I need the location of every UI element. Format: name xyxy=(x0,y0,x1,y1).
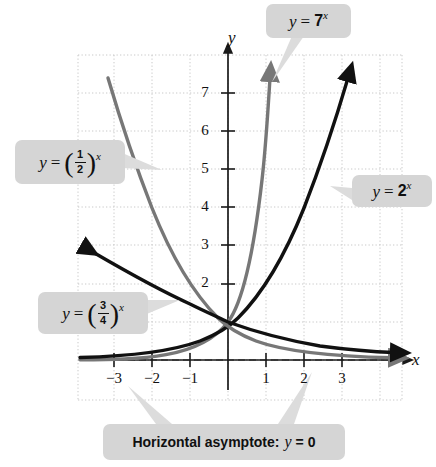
fraction-denominator: 2 xyxy=(77,164,83,176)
callout-seven-base: 7 xyxy=(314,13,323,29)
callout-threeq-operator: = xyxy=(74,305,84,322)
y-axis-label: y xyxy=(228,28,236,48)
callout-half-exponent: x xyxy=(96,151,101,162)
fraction-denominator: 4 xyxy=(100,315,106,327)
right-paren-icon: ) xyxy=(87,152,96,174)
x-tick-label-2: 2 xyxy=(291,370,317,387)
callout-half-operator: = xyxy=(51,154,61,171)
callout-seven-lhs: y xyxy=(289,13,297,30)
plot-canvas xyxy=(0,0,436,467)
fraction-three-quarters: 3 4 xyxy=(98,300,109,326)
callout-tail-asym-left xyxy=(128,386,172,424)
right-paren-icon: ) xyxy=(110,303,119,325)
callout-tail-two xyxy=(330,186,352,200)
callout-threeq-lhs: y xyxy=(62,305,70,322)
x-tick-label-minus2: −2 xyxy=(139,370,165,387)
callout-seven-power-x: y = 7 x xyxy=(266,4,351,38)
asymptote-operator: = xyxy=(296,434,304,450)
x-tick-label-1: 1 xyxy=(253,370,279,387)
callout-two-base: 2 xyxy=(398,183,407,199)
x-tick-label-minus3: −3 xyxy=(101,370,127,387)
callout-half-lhs: y xyxy=(39,154,47,171)
callout-two-power-x: y = 2 x xyxy=(352,175,432,207)
left-paren-icon: ( xyxy=(87,303,96,325)
y-tick-label-4: 4 xyxy=(192,198,218,215)
callout-seven-operator: = xyxy=(301,13,311,30)
fraction-numerator: 3 xyxy=(100,300,106,312)
asymptote-caption: Horizontal asymptote: xyxy=(132,434,279,450)
exponential-functions-figure: 2 3 4 5 6 7 −3 −2 −1 1 2 3 y x y = ( 1 2… xyxy=(0,0,436,467)
x-tick-label-minus1: −1 xyxy=(177,370,203,387)
x-axis-label: x xyxy=(412,350,420,370)
y-tick-label-5: 5 xyxy=(192,160,218,177)
left-paren-icon: ( xyxy=(64,152,73,174)
curve-one-half-power-x xyxy=(108,78,392,358)
fraction-one-half: 1 2 xyxy=(75,149,86,175)
callout-tails xyxy=(120,36,352,424)
x-tick-label-3: 3 xyxy=(329,370,355,387)
callout-two-exponent: x xyxy=(407,180,412,191)
asymptote-value: 0 xyxy=(308,434,316,450)
callout-two-operator: = xyxy=(384,183,394,200)
callout-horizontal-asymptote: Horizontal asymptote: y = 0 xyxy=(103,424,345,460)
callout-tail-half xyxy=(120,152,162,170)
y-tick-label-2: 2 xyxy=(192,274,218,291)
callout-two-lhs: y xyxy=(373,183,381,200)
y-tick-label-7: 7 xyxy=(192,84,218,101)
asymptote-variable: y xyxy=(284,433,291,451)
callout-three-quarters-power-x: y = ( 3 4 ) x xyxy=(38,292,148,334)
y-tick-label-6: 6 xyxy=(192,122,218,139)
callout-tail-seven xyxy=(272,36,304,82)
callout-seven-exponent: x xyxy=(323,10,328,21)
callout-threeq-exponent: x xyxy=(119,302,124,313)
axis-lines xyxy=(80,52,404,390)
fraction-numerator: 1 xyxy=(77,149,83,161)
y-tick-label-3: 3 xyxy=(192,236,218,253)
callout-one-half-power-x: y = ( 1 2 ) x xyxy=(15,140,125,184)
